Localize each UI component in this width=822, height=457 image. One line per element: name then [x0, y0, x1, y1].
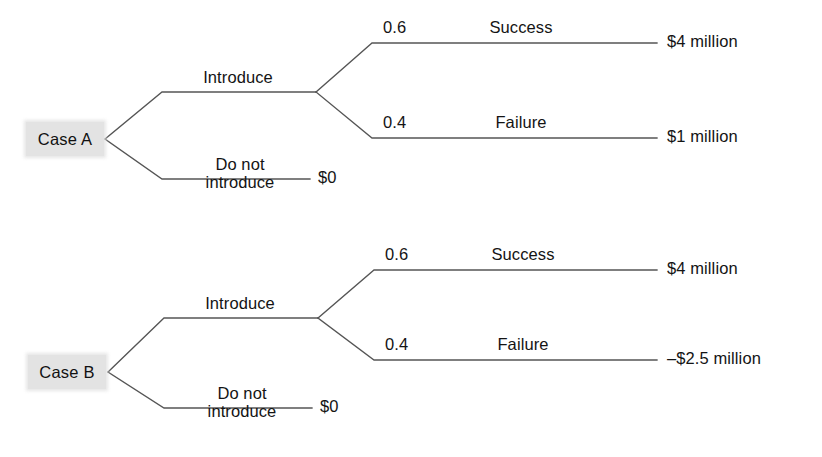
case-a-success-payoff: $4 million [667, 32, 738, 50]
case-b-failure-branch [318, 318, 657, 360]
case-a-failure-label: Failure [495, 113, 546, 131]
case-b-failure-probability: 0.4 [385, 335, 408, 353]
case-b-failure-label: Failure [497, 335, 548, 353]
case-a-do-not-introduce-payoff: $0 [318, 168, 337, 186]
case-a-success-probability: 0.6 [383, 18, 406, 36]
case-b-do-not-introduce-label: Do not introduce [208, 384, 277, 421]
case-a-do-not-introduce-label-line2: introduce [206, 173, 275, 191]
case-b-success-branch [318, 270, 657, 318]
case-b-failure-payoff: –$2.5 million [667, 349, 761, 367]
case-b-do-not-introduce-label-line1: Do not [208, 384, 277, 402]
case-b-success-probability: 0.6 [385, 245, 408, 263]
case-b-do-not-introduce-label-line2: introduce [208, 402, 277, 420]
case-b-introduce-branch [108, 318, 318, 372]
case-a-introduce-label: Introduce [203, 68, 273, 86]
case-b-introduce-label: Introduce [205, 294, 275, 312]
case-a-failure-branch [316, 92, 657, 138]
case-b-success-payoff: $4 million [667, 259, 738, 277]
case-a-success-branch [316, 43, 657, 92]
case-a-failure-payoff: $1 million [667, 127, 738, 145]
case-b-root-label[interactable]: Case B [28, 355, 106, 389]
case-b-do-not-introduce-payoff: $0 [320, 397, 339, 415]
case-a-success-label: Success [489, 18, 552, 36]
case-a-do-not-introduce-label-line1: Do not [206, 155, 275, 173]
tree-branch-lines [0, 0, 822, 457]
case-a-root-label[interactable]: Case A [26, 122, 104, 156]
decision-tree-diagram: Case A Introduce Do not introduce $0 0.6… [0, 0, 822, 457]
case-b-success-label: Success [491, 245, 554, 263]
case-a-failure-probability: 0.4 [383, 113, 406, 131]
case-a-introduce-branch [105, 92, 316, 139]
case-a-do-not-introduce-label: Do not introduce [206, 155, 275, 192]
